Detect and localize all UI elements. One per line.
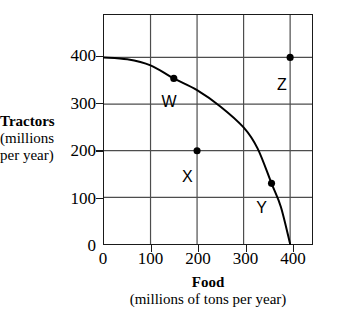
point-label-w: W <box>161 94 176 110</box>
x-tick-label-300: 300 <box>224 250 268 267</box>
y-tick-mark-100 <box>96 198 103 199</box>
point-label-x: X <box>182 169 193 185</box>
data-point-y <box>268 180 275 187</box>
point-label-y: Y <box>256 200 267 216</box>
data-layer <box>104 15 312 244</box>
data-point-x <box>193 147 200 154</box>
x-axis-label: Food (millions of tons per year) <box>103 274 313 308</box>
x-tick-label-400: 400 <box>271 250 315 267</box>
data-point-z <box>287 54 294 61</box>
y-tick-mark-400 <box>96 56 103 57</box>
chart-figure: Tractors (millions per year) 400 300 200… <box>0 0 342 309</box>
x-axis-label-sub: (millions of tons per year) <box>79 291 337 308</box>
y-tick-mark-200 <box>96 150 103 151</box>
plot-area <box>103 14 313 245</box>
x-tick-label-0: 0 <box>81 250 125 267</box>
y-tick-label-400: 400 <box>48 47 96 64</box>
point-label-z: Z <box>277 77 287 93</box>
y-tick-label-100: 100 <box>48 190 96 207</box>
x-axis-label-main: Food <box>103 274 313 291</box>
x-tick-label-200: 200 <box>176 250 220 267</box>
data-point-w <box>170 75 177 82</box>
y-tick-mark-300 <box>96 103 103 104</box>
y-tick-label-200: 200 <box>48 142 96 159</box>
y-tick-label-300: 300 <box>48 95 96 112</box>
x-tick-label-100: 100 <box>129 250 173 267</box>
y-axis-label-main: Tractors <box>0 113 96 130</box>
